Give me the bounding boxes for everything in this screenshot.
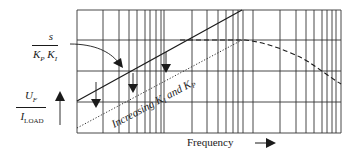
left-fraction-bar [16, 107, 46, 108]
solid-line-bound [77, 10, 242, 101]
down-arrow-icon [91, 82, 101, 108]
left-fraction-numerator: UF [18, 89, 44, 106]
left-fraction-denominator: ILOAD [12, 110, 52, 127]
top-fraction-numerator: s [36, 30, 66, 42]
x-axis-label: Frequency [187, 136, 233, 148]
bode-plot: Increasing KI and KP [0, 0, 354, 156]
up-arrow-icon [55, 91, 65, 125]
dotted-line-bound [77, 40, 242, 128]
down-arrow-icon [161, 52, 171, 73]
top-fraction-bar [32, 45, 58, 46]
dashed-response-curve [180, 40, 341, 84]
right-arrow-icon [255, 138, 276, 148]
down-arrow-icon [128, 73, 138, 93]
top-fraction-denominator: KP KI [28, 48, 62, 65]
arrowhead-icon [113, 58, 123, 68]
